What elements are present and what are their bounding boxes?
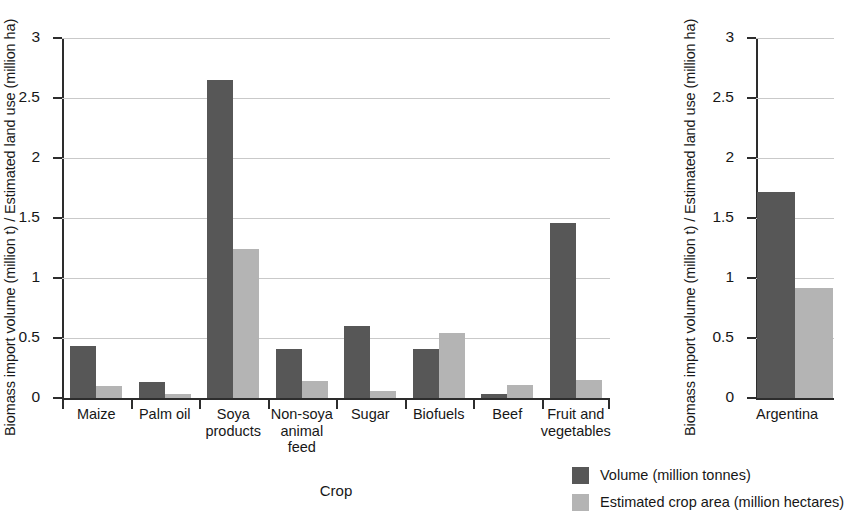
y-tick-label: 0.5 — [18, 328, 40, 346]
bar-crop-area — [439, 333, 465, 398]
bar-volume — [276, 349, 302, 398]
bar-crop-area — [795, 288, 833, 398]
bar-crop-area — [165, 394, 191, 398]
bar-group — [336, 38, 405, 398]
x-tick-label: Argentina — [756, 406, 848, 422]
bar-volume — [70, 346, 96, 398]
y-tick-mark: 2.5 — [747, 97, 756, 99]
y-tick-mark: 1.5 — [53, 217, 62, 219]
y-tick-mark: 1 — [53, 277, 62, 279]
y-tick-label: 2.5 — [18, 88, 40, 106]
bar-group — [199, 38, 268, 398]
y-tick-label: 1 — [725, 268, 734, 286]
y-tick-mark: 1 — [747, 277, 756, 279]
x-tick-label-line: feed — [288, 439, 316, 455]
y-tick-label: 1.5 — [712, 208, 734, 226]
y-tick-mark: 0 — [747, 397, 756, 399]
x-tick-label-line: vegetables — [541, 423, 611, 439]
x-tick-label-line: Palm oil — [139, 406, 191, 422]
x-tick-label-line: Fruit and — [547, 406, 604, 422]
left-x-tick-labels: MaizePalm oilSoyaproductsNon-soyaanimalf… — [62, 406, 610, 476]
bar-volume — [481, 394, 507, 398]
x-tick-label-line: animal — [280, 423, 323, 439]
bar-group — [756, 38, 834, 398]
y-tick-label: 2 — [725, 148, 734, 166]
y-tick-label: 0 — [725, 388, 734, 406]
x-tick-label-line: Sugar — [351, 406, 390, 422]
y-tick-label: 3 — [725, 28, 734, 46]
bar-group — [405, 38, 474, 398]
bar-crop-area — [233, 249, 259, 398]
y-tick-mark: 0.5 — [53, 337, 62, 339]
bar-crop-area — [96, 386, 122, 398]
y-tick-mark: 3 — [53, 37, 62, 39]
legend-swatch-icon — [572, 467, 589, 484]
legend-label: Estimated crop area (million hectares) — [600, 494, 844, 510]
y-tick-label: 2 — [31, 148, 40, 166]
right-x-axis-line — [756, 398, 834, 400]
y-tick-label: 2.5 — [712, 88, 734, 106]
y-tick-mark: 2 — [747, 157, 756, 159]
y-tick-label: 3 — [31, 28, 40, 46]
left-x-axis-title: Crop — [62, 482, 610, 499]
crops-panel: Biomass import volume (million t) / Esti… — [0, 0, 620, 524]
y-tick-label: 1.5 — [18, 208, 40, 226]
y-tick-label: 0 — [31, 388, 40, 406]
bar-volume — [550, 223, 576, 398]
bar-group — [131, 38, 200, 398]
x-tick-label-line: Beef — [492, 406, 522, 422]
x-tick-label-line: Biofuels — [413, 406, 465, 422]
y-tick-mark: 0 — [53, 397, 62, 399]
x-tick-label-line: Maize — [77, 406, 116, 422]
bar-volume — [207, 80, 233, 398]
legend-item: Volume (million tonnes) — [572, 466, 834, 484]
right-x-tick-labels: Argentina — [756, 406, 848, 430]
y-tick-label: 1 — [31, 268, 40, 286]
bar-group — [542, 38, 611, 398]
x-tick-label-line: Non-soya — [271, 406, 333, 422]
left-plot-area: 00.511.522.53 — [62, 38, 610, 400]
x-tick-label-line: Soya — [217, 406, 250, 422]
bar-volume — [757, 192, 795, 398]
bar-crop-area — [302, 381, 328, 398]
bar-group — [473, 38, 542, 398]
left-y-axis-label: Biomass import volume (million t) / Esti… — [3, 6, 18, 436]
y-tick-label: 0.5 — [712, 328, 734, 346]
bar-crop-area — [507, 385, 533, 398]
right-bar-group-container — [756, 38, 834, 398]
y-tick-mark: 2.5 — [53, 97, 62, 99]
right-y-axis-label: Biomass import volume (million t) / Esti… — [683, 6, 698, 436]
legend-label: Volume (million tonnes) — [600, 467, 751, 483]
x-tick-label: Fruit andvegetables — [531, 406, 621, 439]
left-bar-group-container — [62, 38, 610, 398]
bar-crop-area — [576, 380, 602, 398]
y-tick-mark: 3 — [747, 37, 756, 39]
y-tick-mark: 0.5 — [747, 337, 756, 339]
bar-volume — [344, 326, 370, 398]
bar-volume — [413, 349, 439, 398]
y-tick-mark: 2 — [53, 157, 62, 159]
chart-legend: Volume (million tonnes)Estimated crop ar… — [572, 466, 834, 520]
bar-crop-area — [370, 391, 396, 398]
bar-volume — [139, 382, 165, 398]
x-tick-label-line: products — [205, 423, 261, 439]
right-plot-area: 00.511.522.53 — [756, 38, 834, 400]
y-tick-mark: 1.5 — [747, 217, 756, 219]
bar-group — [62, 38, 131, 398]
legend-swatch-icon — [572, 494, 589, 511]
bar-group — [268, 38, 337, 398]
legend-item: Estimated crop area (million hectares) — [572, 493, 834, 511]
